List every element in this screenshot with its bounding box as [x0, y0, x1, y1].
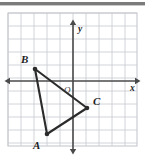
vertex-dot-b [33, 67, 38, 72]
figure-container: x y O BAC [0, 0, 145, 160]
coordinate-plane-svg: x y O BAC [0, 7, 145, 157]
vertex-dot-c [85, 106, 90, 111]
vertex-label-c: C [93, 95, 101, 107]
vertex-dot-a [45, 132, 50, 137]
origin-label: O [64, 85, 71, 95]
vertex-label-b: B [20, 53, 28, 65]
y-axis-label: y [77, 24, 83, 34]
x-axis-right-arrow-icon [135, 78, 141, 84]
x-axis-left-arrow-icon [5, 78, 11, 84]
vertex-label-a: A [32, 139, 40, 151]
x-axis-label: x [129, 83, 135, 93]
y-axis-down-arrow-icon [70, 149, 76, 155]
top-divider-rule [0, 2, 145, 5]
coordinate-plane: x y O BAC [0, 7, 145, 157]
